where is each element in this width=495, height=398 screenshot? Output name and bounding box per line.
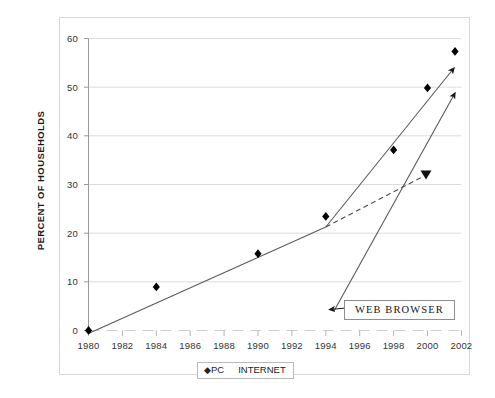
x-tick-1996: 1996 bbox=[343, 340, 377, 351]
pc-data-points bbox=[85, 47, 459, 335]
data-point-1994 bbox=[322, 212, 329, 221]
data-point-2002 bbox=[451, 47, 458, 56]
pc-steep-arrow bbox=[326, 68, 454, 227]
y-tick-60: 60 bbox=[52, 33, 78, 44]
chart-legend: ◆PCINTERNET bbox=[197, 362, 294, 379]
y-tick-30: 30 bbox=[52, 179, 78, 190]
data-point-1984 bbox=[153, 283, 160, 292]
x-tick-1992: 1992 bbox=[275, 340, 309, 351]
plot-area bbox=[0, 0, 495, 398]
x-axis-ticks bbox=[89, 331, 462, 337]
y-tick-40: 40 bbox=[52, 130, 78, 141]
y-tick-50: 50 bbox=[52, 82, 78, 93]
legend-diamond-icon: ◆ bbox=[204, 365, 211, 375]
internet-dashed-line bbox=[326, 176, 424, 227]
internet-arrow bbox=[334, 93, 455, 311]
y-tick-0: 0 bbox=[52, 325, 78, 336]
x-tick-2002: 2002 bbox=[444, 340, 478, 351]
y-axis-ticks bbox=[84, 39, 89, 331]
y-tick-10: 10 bbox=[52, 276, 78, 287]
x-tick-2000: 2000 bbox=[411, 340, 445, 351]
y-axis-title: PERCENT OF HOUSEHOLDS bbox=[35, 81, 46, 281]
x-tick-1998: 1998 bbox=[377, 340, 411, 351]
x-tick-1980: 1980 bbox=[72, 340, 106, 351]
legend-label-pc: PC bbox=[211, 364, 224, 375]
x-tick-1994: 1994 bbox=[309, 340, 343, 351]
x-tick-1984: 1984 bbox=[139, 340, 173, 351]
gridlines bbox=[89, 39, 462, 282]
legend-label-internet: INTERNET bbox=[238, 364, 286, 375]
pc-fit-line bbox=[89, 227, 326, 334]
data-point-2000 bbox=[424, 84, 431, 93]
x-tick-1990: 1990 bbox=[241, 340, 275, 351]
internet-dashed-endpoint-marker bbox=[421, 171, 432, 180]
x-tick-1988: 1988 bbox=[207, 340, 241, 351]
x-tick-1986: 1986 bbox=[173, 340, 207, 351]
chart-container: 60 50 40 30 20 10 0 1980 1982 1984 1986 … bbox=[0, 0, 495, 398]
annotation-web-browser: WEB BROWSER bbox=[344, 300, 455, 320]
y-tick-20: 20 bbox=[52, 228, 78, 239]
x-tick-1982: 1982 bbox=[105, 340, 139, 351]
data-point-1980 bbox=[85, 326, 92, 335]
